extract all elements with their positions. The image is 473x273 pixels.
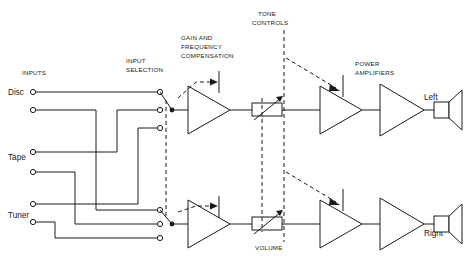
terminal-disc-left[interactable] — [30, 89, 35, 94]
tone-arrowhead-right — [329, 198, 340, 205]
switch-contact-lower-tuner[interactable] — [157, 235, 162, 240]
switch-contact-lower-tape[interactable] — [157, 221, 162, 226]
terminal-tuner-left[interactable] — [30, 201, 35, 206]
gain-arrowhead-left — [210, 79, 218, 86]
label-power-line2: AMPLIFIERS — [355, 69, 394, 76]
tone-amplifier-right — [320, 200, 362, 248]
label-tone-line2: CONTROLS — [252, 19, 288, 26]
label-inputs: INPUTS — [22, 69, 46, 76]
label-gain-line2: FREQUENCY — [181, 43, 222, 50]
switch-contact-upper-tuner[interactable] — [157, 125, 162, 130]
label-input-selection-line2: SELECTION — [126, 66, 163, 73]
power-amplifier-right — [380, 198, 424, 250]
terminal-disc-right[interactable] — [30, 107, 35, 112]
speaker-body-left — [434, 102, 449, 118]
block-diagram: INPUTS Disc Tape Tuner INPUT SELECTION G… — [0, 0, 473, 273]
label-gain-line1: GAIN AND — [181, 34, 213, 41]
terminal-tape-left[interactable] — [30, 149, 35, 154]
label-tone-line1: TONE — [258, 10, 276, 17]
label-source-tape: Tape — [8, 153, 26, 162]
gain-arrowhead-right — [210, 203, 218, 210]
speaker-cone-left — [449, 90, 462, 130]
switch-contact-upper-tape[interactable] — [157, 107, 162, 112]
label-speaker-left: Left — [424, 93, 438, 102]
label-input-selection-line1: INPUT — [126, 57, 146, 64]
speaker-cone-right — [449, 204, 462, 244]
label-gain-line3: COMPENSATION — [181, 52, 234, 59]
label-volume: VOLUME — [255, 244, 283, 251]
label-source-tuner: Tuner — [8, 211, 29, 220]
label-source-disc: Disc — [8, 88, 24, 97]
tone-adjust-arrow-left — [286, 58, 336, 88]
tone-arrowhead-left — [329, 84, 340, 91]
preamp-left-channel — [188, 86, 230, 134]
terminal-tuner-right[interactable] — [30, 219, 35, 224]
wire-disc-right — [36, 110, 157, 210]
power-amplifier-left — [380, 84, 424, 136]
preamp-right-channel — [188, 200, 230, 248]
tone-adjust-arrow-right — [286, 172, 336, 202]
speaker-body-right — [434, 216, 449, 232]
label-power-line1: POWER — [355, 60, 380, 67]
tone-amplifier-left — [320, 86, 362, 134]
terminal-tape-right[interactable] — [30, 169, 35, 174]
